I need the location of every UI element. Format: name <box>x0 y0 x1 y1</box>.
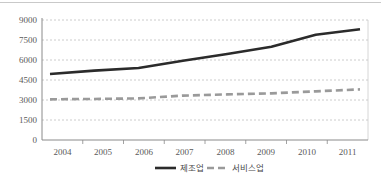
y-axis-labels: 9000 7500 6000 4500 3000 1500 0 <box>19 15 38 145</box>
chart-legend: 제조업 서비스업 <box>155 163 264 173</box>
x-tick-label: 2006 <box>135 147 154 157</box>
y-tick-label: 1500 <box>19 115 38 125</box>
x-tick-label: 2011 <box>339 147 357 157</box>
y-tick-label: 0 <box>33 135 38 145</box>
y-tick-label: 7500 <box>19 35 38 45</box>
x-tick-label: 2009 <box>257 147 276 157</box>
y-tick-label: 9000 <box>19 15 38 25</box>
x-tick-label: 2008 <box>216 147 235 157</box>
x-axis-labels: 2004 2005 2006 2007 2008 2009 2010 2011 <box>53 147 356 157</box>
x-axis-ticks <box>83 140 328 144</box>
line-chart: 9000 7500 6000 4500 3000 1500 0 2004 200… <box>0 0 381 184</box>
legend-label-service: 서비스업 <box>232 163 264 173</box>
y-tick-label: 4500 <box>19 75 38 85</box>
x-tick-label: 2010 <box>298 147 317 157</box>
legend-label-manufacturing: 제조업 <box>180 163 204 173</box>
chart-container: 9000 7500 6000 4500 3000 1500 0 2004 200… <box>0 0 381 184</box>
y-tick-label: 3000 <box>19 95 38 105</box>
y-tick-label: 6000 <box>19 55 38 65</box>
x-tick-label: 2007 <box>176 147 195 157</box>
x-tick-label: 2004 <box>53 147 72 157</box>
x-tick-label: 2005 <box>94 147 113 157</box>
